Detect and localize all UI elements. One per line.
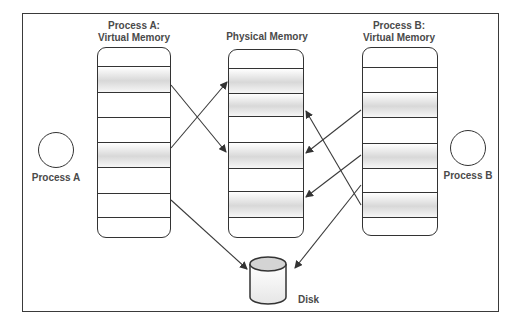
disk-icon (250, 257, 286, 304)
arrow-b6-to-disk (295, 185, 361, 268)
diagram-canvas: Process A Process B Process A: Virtual M… (0, 0, 530, 328)
arrow-a2-to-phys5 (171, 85, 226, 152)
mapping-arrows (0, 0, 530, 328)
arrow-a5-to-phys2 (171, 82, 227, 148)
arrow-b3-to-phys5 (306, 110, 361, 153)
disk-label: Disk (298, 294, 324, 306)
arrow-a7-to-disk (171, 200, 247, 269)
